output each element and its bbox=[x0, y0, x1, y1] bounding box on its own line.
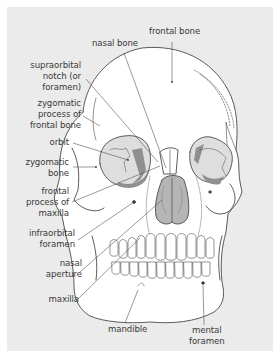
label-nasal-bone: nasal bone bbox=[92, 38, 138, 49]
label-nasal-aperture: nasal aperture bbox=[46, 258, 82, 280]
label-zygomatic-bone: zygomatic bone bbox=[25, 157, 69, 179]
label-mandible: mandible bbox=[108, 324, 147, 335]
label-maxilla: maxilla bbox=[49, 294, 79, 305]
label-frontal-process-of-maxilla: frontal process of maxilla bbox=[26, 186, 69, 219]
label-orbit: orbit bbox=[49, 137, 69, 148]
label-infraorbital-foramen: infraorbital foramen bbox=[29, 228, 75, 250]
label-mental-foramen: mental foramen bbox=[189, 325, 225, 347]
label-zygomatic-process-of-frontal-bone: zygomatic process of frontal bone bbox=[30, 98, 81, 131]
label-frontal-bone: frontal bone bbox=[149, 26, 200, 37]
label-supraorbital-notch: supraorbital notch (or foramen) bbox=[30, 60, 81, 93]
cranium-outline bbox=[54, 47, 242, 322]
